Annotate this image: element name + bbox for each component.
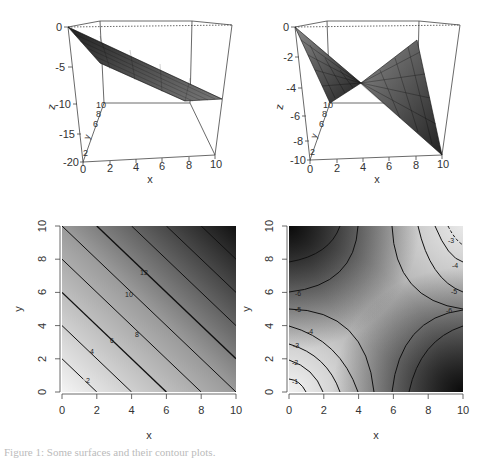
surface-plot-left: 0 -5 -10 -15 -20 z 2 y 6 8 10 0 2 4 6 8 … [45, 21, 232, 185]
y-tick: 4 [263, 323, 275, 329]
x-tick: 4 [133, 161, 139, 173]
x-tick: 4 [360, 161, 366, 173]
x-tick: 2 [334, 162, 340, 174]
y-tick: 10 [263, 220, 275, 232]
x-tick: 8 [413, 159, 419, 171]
y-axis-label: y [81, 133, 92, 141]
contour-label: -2 [292, 359, 298, 366]
x-tick: 0 [59, 404, 65, 416]
surface-plot-right: 0 -2 -4 -6 -8 -10 z 2 y 6 8 10 0 2 4 6 8… [273, 21, 460, 185]
z-axis-label: z [273, 103, 286, 111]
x-tick: 6 [386, 160, 392, 172]
contour-label: 10 [125, 291, 133, 298]
y-axis-label: y [12, 306, 24, 312]
contour-plot-left: 2 4 6 8 10 12 0 2 4 6 8 10 10 8 [12, 220, 242, 441]
z-tick: -10 [55, 98, 71, 110]
contour-label: -3 [293, 342, 299, 349]
y-tick: 2 [310, 147, 315, 157]
x-tick: 6 [159, 160, 165, 172]
x-tick: 8 [425, 404, 431, 416]
x-tick: 10 [437, 158, 449, 170]
z-tick: -20 [63, 156, 79, 168]
x-tick: 6 [390, 404, 396, 416]
x-tick: 0 [307, 163, 313, 175]
y-tick: 0 [36, 389, 48, 395]
x-tick: 10 [230, 404, 242, 416]
x-tick: 2 [321, 404, 327, 416]
x-tick: 8 [198, 404, 204, 416]
y-tick: 10 [96, 100, 106, 110]
contour-label: 8 [135, 331, 139, 338]
contour-label: -3 [448, 237, 454, 244]
contour-label: -4 [452, 262, 458, 269]
contour-label: -5 [451, 288, 457, 295]
x-tick: 4 [129, 404, 135, 416]
z-tick: -5 [55, 61, 65, 73]
y-tick: 6 [319, 119, 324, 129]
x-axis-label: x [374, 173, 380, 185]
x-tick: 0 [80, 163, 86, 175]
z-tick: 0 [283, 21, 289, 33]
figure-caption: Figure 1: Some surfaces and their contou… [4, 446, 215, 458]
x-tick: 10 [210, 158, 222, 170]
z-tick: 0 [56, 21, 62, 33]
x-tick: 2 [94, 404, 100, 416]
y-tick: 6 [36, 289, 48, 295]
y-tick: 8 [36, 256, 48, 262]
y-tick: 6 [93, 119, 98, 129]
contour-label: -6 [295, 290, 301, 297]
z-tick: -10 [290, 154, 306, 166]
z-tick: -6 [290, 110, 300, 122]
contour-label: 4 [90, 348, 94, 355]
y-tick: 2 [36, 356, 48, 362]
y-tick: 8 [96, 109, 101, 119]
contour-label: -6 [446, 307, 452, 314]
y-tick: 6 [263, 289, 275, 295]
x-tick: 10 [457, 404, 469, 416]
y-tick: 2 [83, 148, 88, 158]
y-tick: 0 [263, 389, 275, 395]
contour-label: -1 [292, 378, 298, 385]
z-tick: -2 [283, 51, 293, 63]
y-axis-label: y [240, 306, 252, 312]
x-tick: 0 [286, 404, 292, 416]
y-tick: 4 [36, 323, 48, 329]
x-axis-label: x [147, 173, 153, 185]
x-tick: 4 [356, 404, 362, 416]
x-tick: 2 [107, 162, 113, 174]
contour-label: -5 [295, 306, 301, 313]
y-tick: 2 [263, 356, 275, 362]
y-tick: 8 [263, 256, 275, 262]
x-tick: 8 [186, 159, 192, 171]
x-axis-label: x [146, 429, 152, 441]
y-tick: 8 [322, 109, 327, 119]
contour-label: -4 [307, 328, 313, 335]
z-tick: -15 [59, 128, 75, 140]
x-axis-label: x [373, 429, 379, 441]
y-tick: 10 [36, 220, 48, 232]
contour-label: 12 [140, 269, 148, 276]
y-axis-label: y [308, 132, 319, 140]
z-tick: -8 [293, 135, 303, 147]
contour-plot-right: -1 -2 -3 -4 -5 -6 -3 -4 -5 -6 0 2 4 6 [240, 220, 469, 441]
y-tick: 10 [323, 100, 333, 110]
z-tick: -4 [286, 82, 296, 94]
x-tick: 6 [163, 404, 169, 416]
contour-label: 2 [86, 377, 90, 384]
contour-label: 6 [110, 337, 114, 344]
